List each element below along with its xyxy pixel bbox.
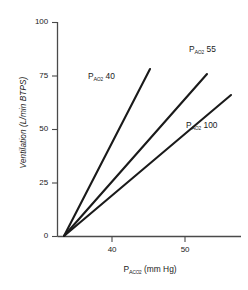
- x-tick-label-50: 50: [174, 246, 196, 254]
- x-axis-title: PACO2 (mm Hg): [60, 264, 240, 275]
- curve-55-sub-number: 2: [202, 50, 204, 55]
- curve-label-pao2-100: PAO2 100: [186, 120, 217, 131]
- x-axis-title-symbol-group: PACO2: [123, 264, 141, 275]
- x-tick-label-40: 40: [101, 246, 123, 254]
- curve-40-value: 40: [105, 71, 114, 81]
- curve-100-value: 100: [203, 120, 217, 130]
- y-axis-title-text: Ventilation (L/min BTPS): [19, 77, 28, 169]
- curve-100-sub-number: 2: [199, 126, 201, 131]
- y-tick-label-100: 100: [22, 18, 48, 26]
- curve-label-pao2-40: PAO2 40: [88, 71, 115, 82]
- x-axis-units: (mm Hg): [144, 264, 177, 274]
- ventilation-co2-response-chart: 100 75 50 25 0 40 50 Ventilation (L/min …: [0, 0, 248, 290]
- curve-55-value: 55: [206, 44, 215, 54]
- curve-40-sub-number: 2: [101, 77, 103, 82]
- y-tick-label-0: 0: [22, 232, 48, 240]
- curve-label-pao2-55: PAO2 55: [189, 44, 216, 55]
- curve-pao2-100: [64, 95, 231, 236]
- x-axis-sub-sub-number: 2: [139, 270, 141, 275]
- y-axis-title: Ventilation (L/min BTPS): [19, 43, 28, 203]
